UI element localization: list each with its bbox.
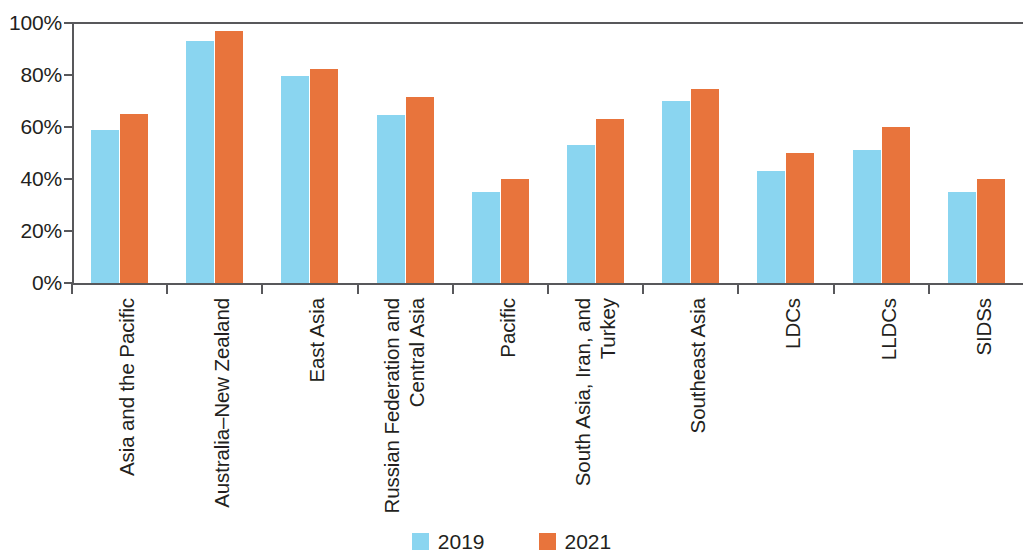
category-label: East Asia	[304, 298, 329, 383]
x-axis-tick	[833, 284, 835, 294]
x-axis-tick	[547, 284, 549, 294]
bar-2019-southeast-asia	[662, 101, 690, 283]
y-axis-tick-label: 60%	[0, 116, 62, 137]
category-label: LLDCs	[876, 298, 901, 360]
y-axis-tick-label: 20%	[0, 220, 62, 241]
bar-2019-east-asia	[281, 76, 309, 283]
bar-2021-asia-and-the-pacific	[120, 114, 148, 283]
y-axis-tick-label: 80%	[0, 64, 62, 85]
x-axis-tick	[357, 284, 359, 294]
y-axis-tick-label: 100%	[0, 12, 62, 33]
x-axis-tick	[928, 284, 930, 294]
bar-2019-ldcs	[757, 171, 785, 283]
category-label-line: Turkey	[595, 298, 620, 486]
bar-2021-lldcs	[882, 127, 910, 283]
bar-2019-sidss	[948, 192, 976, 283]
bar-2019-asia-and-the-pacific	[91, 130, 119, 283]
category-label-line: LLDCs	[876, 298, 901, 360]
legend-label: 2021	[565, 531, 612, 552]
x-axis-tick	[166, 284, 168, 294]
category-label: SIDSs	[971, 298, 996, 356]
category-label-line: LDCs	[780, 298, 805, 349]
bar-2019-russian-federation-and-central-asia	[377, 115, 405, 283]
category-label-line: Australia–New Zealand	[209, 298, 234, 508]
category-label-line: SIDSs	[971, 298, 996, 356]
y-axis-tick-label: 0%	[0, 272, 62, 293]
category-label: Australia–New Zealand	[209, 298, 234, 508]
x-axis-tick	[737, 284, 739, 294]
legend-item-2021: 2021	[539, 531, 612, 552]
legend-swatch-icon	[539, 533, 556, 550]
bar-2021-east-asia	[310, 69, 338, 284]
bar-2019-lldcs	[853, 150, 881, 283]
bar-2019-australia-new-zealand	[186, 41, 214, 283]
x-axis-tick	[452, 284, 454, 294]
bar-2021-south-asia-iran-and-turkey	[596, 119, 624, 283]
chart-legend: 20192021	[0, 531, 1023, 552]
legend-swatch-icon	[412, 533, 429, 550]
bar-2021-russian-federation-and-central-asia	[406, 97, 434, 283]
bar-2021-pacific	[501, 179, 529, 283]
y-axis-tick-label: 40%	[0, 168, 62, 189]
category-label: South Asia, Iran, andTurkey	[570, 298, 620, 486]
bar-2021-ldcs	[786, 153, 814, 283]
legend-label: 2019	[438, 531, 485, 552]
category-label-line: South Asia, Iran, and	[570, 298, 595, 486]
category-label-line: Russian Federation and	[379, 298, 404, 513]
category-label: Russian Federation andCentral Asia	[379, 298, 429, 513]
category-label-line: Central Asia	[404, 298, 429, 513]
bar-2021-southeast-asia	[691, 89, 719, 283]
category-label-line: Southeast Asia	[685, 298, 710, 433]
x-axis-tick	[642, 284, 644, 294]
bar-2019-pacific	[472, 192, 500, 283]
x-axis-tick	[261, 284, 263, 294]
legend-item-2019: 2019	[412, 531, 485, 552]
bar-2021-australia-new-zealand	[215, 31, 243, 283]
category-label: Southeast Asia	[685, 298, 710, 433]
category-label: Pacific	[495, 298, 520, 358]
plot-area	[72, 23, 1023, 283]
category-label: Asia and the Pacific	[114, 298, 139, 476]
bar-2019-south-asia-iran-and-turkey	[567, 145, 595, 283]
bar-2021-sidss	[977, 179, 1005, 283]
category-label-line: Asia and the Pacific	[114, 298, 139, 476]
category-label-line: Pacific	[495, 298, 520, 358]
bar-chart: 0%20%40%60%80%100% Asia and the PacificA…	[0, 0, 1023, 560]
category-label: LDCs	[780, 298, 805, 349]
x-axis-tick	[71, 284, 73, 294]
category-label-line: East Asia	[304, 298, 329, 383]
